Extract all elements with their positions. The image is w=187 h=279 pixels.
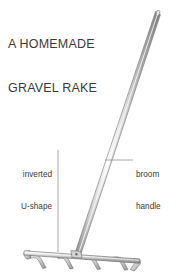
callout-broom-handle-line-1: broom	[136, 170, 187, 181]
figure-title-line-1: A HOMEMADE	[8, 37, 97, 52]
callout-broom-handle: broom handle	[136, 149, 187, 223]
figure-title-line-2: GRAVEL RAKE	[8, 81, 97, 96]
callout-inverted-u-shape-line-2: U-shape	[0, 202, 52, 213]
socket-bolt	[75, 253, 78, 256]
tine-inverted-u-1	[31, 255, 47, 268]
callout-broom-handle-line-2: handle	[136, 202, 187, 213]
figure-title: A HOMEMADE GRAVEL RAKE	[8, 8, 97, 110]
callout-inverted-u-shape-line-1: inverted	[0, 170, 52, 181]
callout-inverted-u-shape: inverted U-shape	[0, 149, 52, 223]
rake-head	[24, 251, 141, 271]
